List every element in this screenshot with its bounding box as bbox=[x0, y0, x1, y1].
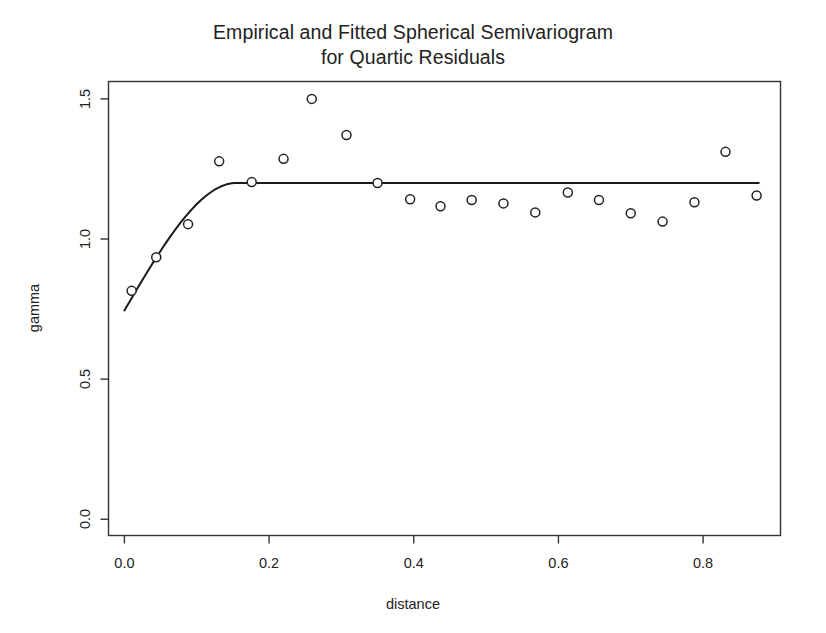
data-point-marker bbox=[215, 157, 224, 166]
plot-frame bbox=[109, 82, 781, 536]
data-point-marker bbox=[373, 178, 382, 187]
empirical-data-points bbox=[127, 94, 761, 295]
data-point-marker bbox=[594, 196, 603, 205]
x-axis-title: distance bbox=[0, 596, 826, 612]
data-point-marker bbox=[342, 131, 351, 140]
data-point-marker bbox=[499, 199, 508, 208]
x-tick-label: 0.4 bbox=[384, 555, 444, 571]
data-point-marker bbox=[658, 217, 667, 226]
data-point-marker bbox=[184, 220, 193, 229]
data-point-marker bbox=[307, 94, 316, 103]
plot-area bbox=[0, 0, 826, 633]
data-point-marker bbox=[467, 196, 476, 205]
chart-figure: Empirical and Fitted Spherical Semivario… bbox=[0, 0, 826, 633]
data-point-marker bbox=[752, 191, 761, 200]
data-point-marker bbox=[690, 198, 699, 207]
y-tick-label: 0.0 bbox=[77, 509, 93, 529]
data-point-marker bbox=[721, 147, 730, 156]
x-tick-label: 0.6 bbox=[528, 555, 588, 571]
x-tick-label: 0.2 bbox=[239, 555, 299, 571]
data-point-marker bbox=[152, 253, 161, 262]
y-tick-label: 1.5 bbox=[77, 89, 93, 109]
x-axis-ticks bbox=[124, 536, 703, 544]
y-tick-label: 1.0 bbox=[77, 229, 93, 249]
data-point-marker bbox=[563, 188, 572, 197]
x-tick-label: 0.8 bbox=[673, 555, 733, 571]
y-tick-label: 0.5 bbox=[77, 369, 93, 389]
data-point-marker bbox=[127, 286, 136, 295]
data-point-marker bbox=[531, 208, 540, 217]
x-tick-label: 0.0 bbox=[94, 555, 154, 571]
data-point-marker bbox=[436, 202, 445, 211]
data-point-marker bbox=[279, 154, 288, 163]
data-point-marker bbox=[406, 195, 415, 204]
y-axis-ticks bbox=[101, 99, 109, 519]
data-point-marker bbox=[247, 178, 256, 187]
data-point-marker bbox=[626, 209, 635, 218]
